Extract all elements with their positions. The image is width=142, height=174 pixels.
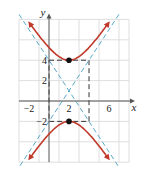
x-axis-label: x xyxy=(131,101,137,113)
vertex-point xyxy=(66,119,72,125)
vertex-point xyxy=(66,57,72,63)
y-axis-arrow-icon xyxy=(47,13,52,18)
y-tick-label: 4 xyxy=(42,55,47,66)
y-tick-label: −2 xyxy=(36,116,47,127)
axes xyxy=(19,13,135,162)
x-tick-label: 6 xyxy=(107,103,112,114)
tick-labels: −22642−2xy xyxy=(24,6,137,127)
x-tick-label: 2 xyxy=(67,103,72,114)
y-axis-label: y xyxy=(40,6,46,18)
y-tick-label: 2 xyxy=(42,75,47,86)
grid xyxy=(19,19,129,162)
x-tick-label: −2 xyxy=(24,103,35,114)
asymptotes xyxy=(19,14,119,167)
hyperbola-chart: −22642−2xy xyxy=(0,0,142,174)
